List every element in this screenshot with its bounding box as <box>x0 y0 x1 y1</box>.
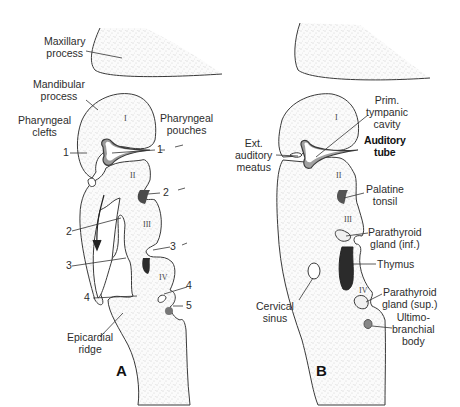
panel-label-b: B <box>316 362 327 379</box>
label-auditory-tube: Auditory tube <box>364 134 406 158</box>
arch-label-3-b: III <box>344 215 352 224</box>
cleft-number-4: 4 <box>84 292 90 303</box>
panel-b-drawing <box>277 23 430 405</box>
label-thymus: Thymus <box>377 258 414 270</box>
arch-label-4-a: IV <box>159 273 167 282</box>
label-mandibular-process: Mandibular process <box>33 78 85 102</box>
label-parathyroid-inferior: Parathyroid gland (inf.) <box>368 226 422 250</box>
pouch-number-3: 3 <box>170 241 176 252</box>
arch-label-2-a: II <box>130 171 135 180</box>
pouch-number-4: 4 <box>186 280 192 291</box>
cleft-number-1: 1 <box>63 147 69 158</box>
label-primitive-tympanic-cavity: Prim. tympanic cavity <box>366 94 408 130</box>
cleft-number-2: 2 <box>66 226 72 237</box>
label-pharyngeal-pouches: Pharyngeal pouches <box>160 112 213 136</box>
thymus <box>339 247 353 290</box>
label-palatine-tonsil: Palatine tonsil <box>366 183 404 207</box>
label-maxillary-process: Maxillary process <box>44 35 85 59</box>
pouch-5-a <box>165 307 173 315</box>
label-external-auditory-meatus: Ext. auditory meatus <box>235 137 272 173</box>
ultimobranchial-body <box>364 320 372 329</box>
maxillary-process-shape <box>91 28 222 77</box>
pouch-number-1: 1 <box>157 144 163 155</box>
arch-label-2-b: II <box>336 171 341 180</box>
cleft-number-3: 3 <box>66 260 72 271</box>
maxillary-process-b <box>295 23 430 80</box>
pouch-number-5: 5 <box>186 300 192 311</box>
cervical-sinus <box>308 263 320 279</box>
pouch-number-2: 2 <box>163 187 169 198</box>
arch-label-1-b: I <box>335 113 338 122</box>
label-pharyngeal-clefts: Pharyngeal clefts <box>18 114 71 138</box>
label-epicardial-ridge: Epicardial ridge <box>67 331 113 355</box>
arch-label-3-a: III <box>143 220 151 229</box>
panel-label-a: A <box>116 362 127 379</box>
label-ultimobranchial-body: Ultimo- branchial body <box>392 311 435 347</box>
label-cervical-sinus: Cervical sinus <box>256 300 294 324</box>
label-parathyroid-superior: Parathyroid gland (sup.) <box>382 286 437 310</box>
arch-label-1-a: I <box>124 114 127 123</box>
arch-label-4-b: IV <box>359 286 367 295</box>
